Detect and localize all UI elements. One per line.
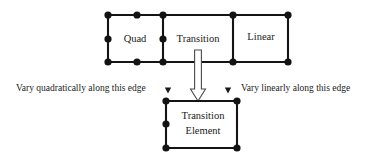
mesh-node bbox=[159, 58, 166, 65]
left-annotation-label: Vary quadratically along this edge bbox=[16, 83, 146, 93]
bottom-element-label-line2: Element bbox=[186, 125, 221, 136]
transition-mesh-diagram: Quad Transition Linear Vary quadraticall… bbox=[0, 0, 383, 160]
mesh-node bbox=[104, 11, 111, 18]
mesh-node bbox=[104, 58, 111, 65]
transition-flow-arrow-icon bbox=[191, 50, 206, 101]
mesh-node bbox=[133, 58, 140, 65]
mesh-node bbox=[133, 11, 140, 18]
mesh-node bbox=[162, 97, 169, 104]
mesh-node bbox=[229, 58, 236, 65]
transition-element-label: Transition bbox=[177, 33, 221, 44]
mesh-node bbox=[159, 35, 166, 42]
mesh-node bbox=[284, 58, 291, 65]
mesh-node bbox=[233, 97, 240, 104]
bottom-element-label-line1: Transition bbox=[182, 110, 226, 121]
linear-element-label: Linear bbox=[247, 31, 275, 42]
mesh-node bbox=[233, 144, 240, 151]
mesh-node bbox=[162, 144, 169, 151]
mesh-node bbox=[284, 11, 291, 18]
mesh-node bbox=[104, 35, 111, 42]
diagram-canvas: Quad Transition Linear Vary quadraticall… bbox=[0, 0, 383, 160]
right-down-arrow-icon bbox=[225, 79, 231, 94]
mesh-node bbox=[162, 120, 169, 127]
mesh-node bbox=[229, 11, 236, 18]
quad-element-label: Quad bbox=[124, 33, 147, 44]
mesh-node bbox=[159, 11, 166, 18]
right-annotation-label: Vary linearly along this edge bbox=[241, 83, 350, 93]
left-down-arrow-icon bbox=[165, 79, 171, 94]
